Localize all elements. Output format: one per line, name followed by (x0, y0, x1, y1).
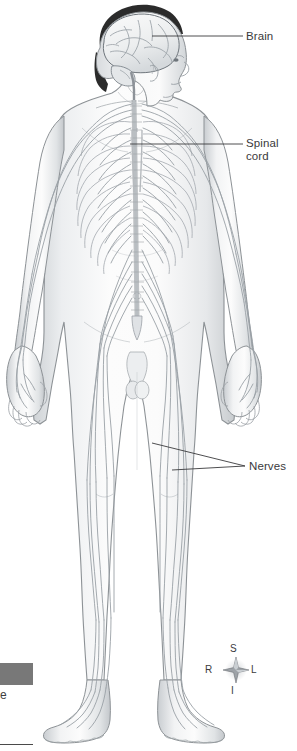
compass-label-right: R (205, 664, 212, 675)
label-brain: Brain (246, 30, 273, 43)
caption-color-bar (0, 663, 33, 685)
caption-truncated-text: e (0, 688, 7, 702)
compass-label-superior: S (230, 643, 237, 654)
label-spinal-cord: Spinal cord (246, 137, 279, 162)
figure-page: Brain Spinal cord Nerves S R L I e (0, 0, 297, 751)
footer-divider (0, 744, 33, 745)
nervous-system-illustration (0, 0, 297, 751)
label-nerves: Nerves (249, 460, 286, 473)
feet (43, 680, 224, 743)
compass-label-inferior: I (231, 685, 234, 696)
compass-label-left: L (251, 664, 257, 675)
groin-detail (126, 352, 149, 399)
compass-rose (223, 657, 249, 683)
